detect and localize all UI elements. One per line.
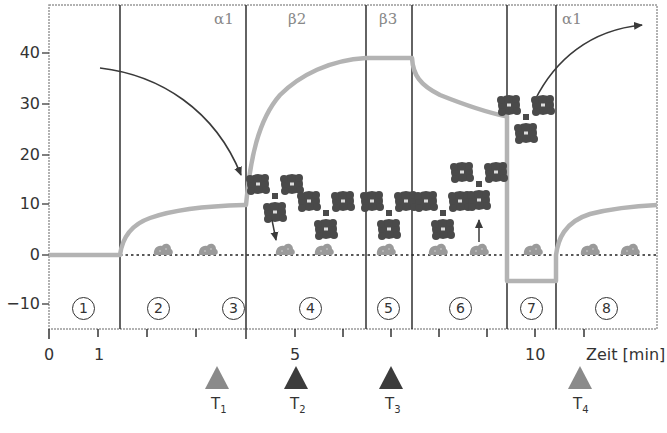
- phase-label-alpha1: α1: [214, 10, 234, 28]
- signal-curve: [49, 58, 657, 281]
- t4-marker-icon: [568, 366, 592, 389]
- t1-marker-icon: [205, 366, 229, 389]
- x-tick-label: 10: [525, 345, 545, 364]
- sensorgram-diagram: 40 30 20 10 0 −10 0 1 5 10 Zeit [min] α1…: [0, 0, 667, 433]
- step-7-badge: 7: [520, 297, 543, 320]
- t2-marker-icon: [284, 366, 308, 389]
- y-tick-label: 30: [0, 94, 40, 113]
- step-4-badge: 4: [299, 297, 322, 320]
- binding-arrow-icon: [272, 220, 276, 240]
- dissociation-arrow-icon: [535, 25, 642, 100]
- y-axis-ticks: [42, 53, 49, 304]
- x-tick-label: 1: [94, 345, 104, 364]
- y-tick-label: 40: [0, 43, 40, 62]
- t1-label: T1: [211, 395, 227, 415]
- plot-canvas: [0, 0, 667, 433]
- y-tick-label: −10: [0, 294, 40, 313]
- plot-frame: [49, 5, 657, 329]
- x-tick-label: 5: [290, 345, 300, 364]
- step-8-badge: 8: [595, 297, 618, 320]
- y-tick-label: 0: [0, 245, 40, 264]
- t3-marker-icon: [379, 366, 403, 389]
- x-axis-title: Zeit [min]: [586, 345, 665, 364]
- phase-label-beta2: β2: [288, 10, 306, 28]
- t3-label: T3: [385, 395, 401, 415]
- step-5-badge: 5: [377, 297, 400, 320]
- y-tick-label: 10: [0, 194, 40, 213]
- t4-label: T4: [573, 395, 589, 415]
- step-1-badge: 1: [72, 297, 95, 320]
- antigen-icons: [154, 244, 640, 255]
- x-axis-ticks: [49, 329, 584, 339]
- step-2-badge: 2: [147, 297, 170, 320]
- step-3-badge: 3: [222, 297, 245, 320]
- x-tick-label: 0: [44, 345, 54, 364]
- t2-label: T2: [290, 395, 306, 415]
- y-tick-label: 20: [0, 145, 40, 164]
- injection-arrow-icon: [100, 68, 241, 175]
- step-6-badge: 6: [449, 297, 472, 320]
- phase-label-alpha1-regeneration: α1: [562, 10, 582, 28]
- phase-label-beta3: β3: [379, 10, 397, 28]
